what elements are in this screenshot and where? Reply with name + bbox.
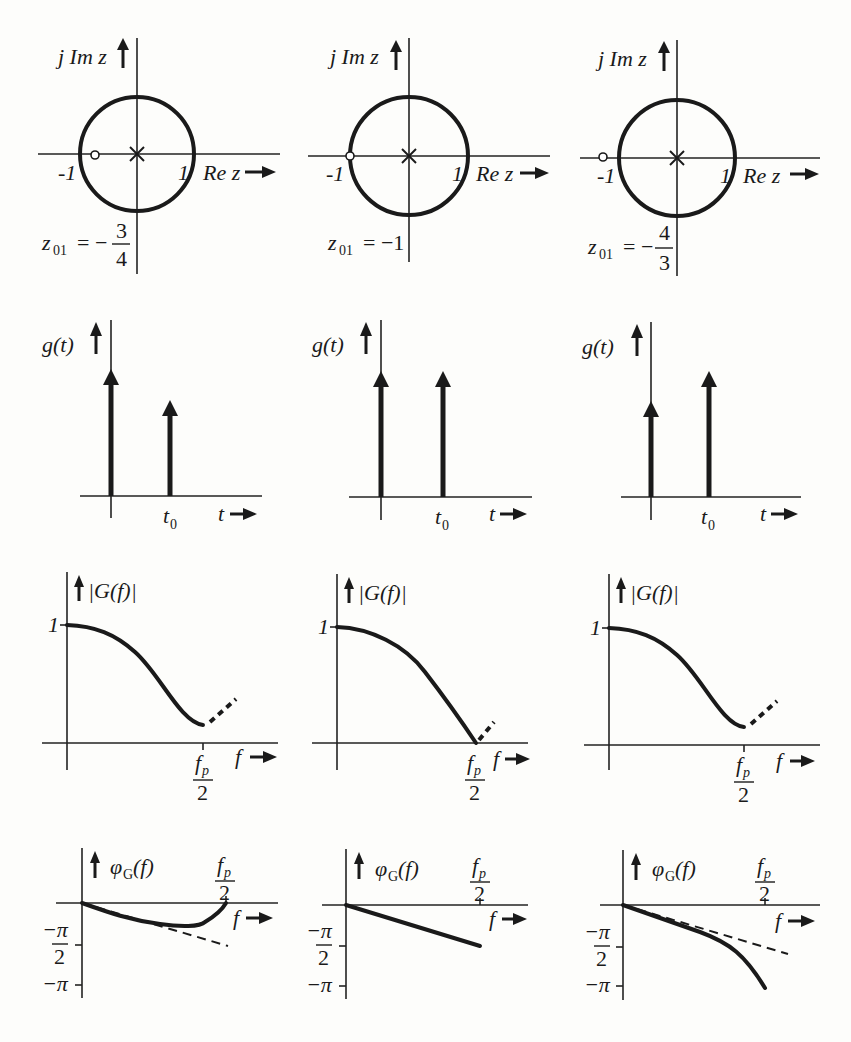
tick-neg-one: -1 [58, 160, 76, 185]
up-arrow-icon [117, 38, 129, 68]
svg-text:2: 2 [219, 880, 230, 905]
svg-text:= −: = − [623, 234, 653, 259]
right-arrow-icon [788, 915, 815, 927]
y-axis-label: φ G (f) [652, 856, 696, 884]
svg-text:G: G [665, 869, 675, 884]
y-axis-label: φ G (f) [375, 856, 419, 884]
fp-half-label: f p 2 [465, 750, 485, 805]
magnitude-plot-1: |G(f)| 1 f p 2 f [42, 572, 278, 805]
fp-half-label: f p 2 [215, 852, 235, 905]
svg-text:2: 2 [54, 944, 65, 969]
svg-text:G: G [123, 867, 133, 882]
svg-text:01: 01 [53, 243, 67, 258]
y-axis-label: φ G (f) [110, 854, 154, 882]
svg-text:(f): (f) [675, 856, 696, 881]
phase-curve [623, 905, 765, 988]
magnitude-curve [337, 627, 476, 743]
impulse-arrow-t0 [701, 371, 717, 497]
right-arrow-icon [520, 167, 549, 179]
pole-zero-plot-2: j Im z -1 1 Re z z 01 = −1 [308, 38, 550, 262]
svg-text:2: 2 [759, 881, 770, 906]
up-arrow-icon [658, 41, 670, 71]
svg-text:01: 01 [339, 243, 353, 258]
t0-label: t [163, 503, 170, 528]
pole-zero-plot-1: j Im z -1 1 Re z z 01 = − 3 4 [38, 38, 280, 274]
t-axis-label: t [760, 501, 767, 526]
real-axis-label: Re z [742, 163, 781, 188]
svg-text:−π: −π [306, 918, 333, 943]
y-axis-label: |G(f)| [88, 578, 137, 603]
phase-plot-3: φ G (f) f p 2 −π 2 −π f [584, 850, 820, 1000]
svg-text:φ: φ [110, 854, 122, 879]
svg-text:4: 4 [116, 246, 127, 271]
neg-half-pi-label: −π 2 [306, 918, 333, 970]
up-arrow-icon [360, 322, 372, 354]
neg-half-pi-label: −π 2 [42, 917, 69, 969]
zero-marker-icon [346, 152, 354, 160]
right-arrow-icon [245, 166, 276, 178]
svg-text:2: 2 [197, 780, 208, 805]
fp-half-label: f p 2 [755, 853, 775, 906]
up-arrow-icon [390, 40, 402, 70]
imag-axis-label: j Im z [595, 46, 647, 71]
t0-label: t [701, 504, 708, 529]
svg-text:p: p [742, 765, 750, 780]
phase-curve [346, 905, 480, 946]
real-axis-label: Re z [475, 161, 514, 186]
f-axis-label: f [489, 906, 498, 931]
up-arrow-icon [344, 577, 354, 603]
y-axis-label: |G(f)| [630, 580, 679, 605]
magnitude-continuation [751, 701, 777, 724]
one-label: 1 [318, 614, 329, 639]
f-axis-label: f [775, 908, 784, 933]
svg-text:3: 3 [116, 218, 127, 243]
impulse-arrow-t0 [162, 400, 178, 496]
magnitude-plot-3: |G(f)| 1 f p 2 f [584, 574, 820, 807]
phase-plot-1: φ G (f) f p 2 −π 2 −π f [42, 848, 278, 998]
right-arrow-icon [771, 508, 798, 520]
svg-text:p: p [763, 866, 771, 881]
zero-marker-icon [91, 151, 99, 159]
y-axis-label: g(t) [312, 332, 344, 357]
svg-text:= −1: = −1 [363, 230, 404, 255]
magnitude-continuation [210, 699, 236, 722]
impulse-arrow-t0 [435, 371, 451, 497]
svg-text:p: p [201, 763, 209, 778]
neg-pi-label: −π [42, 971, 69, 996]
svg-text:φ: φ [375, 856, 387, 881]
up-arrow-icon [616, 577, 626, 603]
neg-pi-label: −π [584, 972, 611, 997]
svg-text:2: 2 [469, 780, 480, 805]
svg-text:z: z [41, 230, 51, 255]
neg-pi-label: −π [306, 972, 333, 997]
y-axis-label: g(t) [42, 332, 74, 357]
t-axis-label: t [489, 501, 496, 526]
f-axis-label: f [776, 748, 785, 773]
impulse-response-plot-2: g(t) t 0 t [312, 320, 532, 533]
right-arrow-icon [230, 508, 257, 520]
zero-value-label: z 01 = −1 [327, 230, 404, 258]
imag-axis-label: j Im z [327, 44, 379, 69]
y-axis-label: g(t) [582, 334, 614, 359]
fp-half-label: f p 2 [193, 750, 213, 805]
f-axis-label: f [493, 746, 502, 771]
impulse-response-plot-3: g(t) t 0 t [582, 322, 801, 533]
svg-text:01: 01 [599, 247, 613, 262]
svg-text:(f): (f) [133, 854, 154, 879]
right-arrow-icon [505, 753, 530, 765]
right-arrow-icon [790, 755, 815, 767]
y-axis-label: |G(f)| [358, 580, 407, 605]
right-arrow-icon [246, 912, 273, 924]
svg-text:2: 2 [474, 881, 485, 906]
impulse-arrow-0 [373, 371, 389, 497]
svg-text:p: p [473, 763, 481, 778]
magnitude-plot-2: |G(f)| 1 f p 2 f [312, 574, 530, 805]
real-axis-label: Re z [202, 160, 241, 185]
up-arrow-icon [74, 575, 84, 601]
t-axis-label: t [218, 501, 225, 526]
fp-half-label: f p 2 [734, 752, 754, 807]
svg-text:−π: −π [42, 917, 69, 942]
magnitude-curve [67, 625, 203, 725]
magnitude-curve [609, 628, 744, 727]
tick-pos-one: 1 [452, 161, 463, 186]
